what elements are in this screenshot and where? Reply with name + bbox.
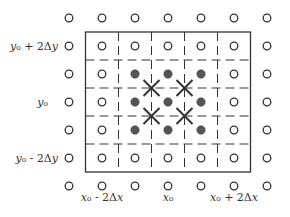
axis-labels: y₀ + 2Δyy₀y₀ - 2Δyx₀ - 2Δxx₀x₀ + 2Δx [9, 40, 259, 204]
open-grid-point [197, 42, 205, 50]
open-grid-point [263, 126, 271, 134]
stencil-grid-diagram: y₀ + 2Δyy₀y₀ - 2Δyx₀ - 2Δxx₀x₀ + 2Δx [0, 0, 290, 217]
open-grid-point [131, 182, 139, 190]
open-grid-point [164, 182, 172, 190]
open-grid-point [164, 154, 172, 162]
open-grid-point [65, 126, 73, 134]
open-grid-point [65, 98, 73, 106]
open-grid-point [98, 126, 106, 134]
open-grid-point [263, 98, 271, 106]
filled-grid-point [164, 98, 172, 106]
open-grid-point [164, 42, 172, 50]
open-grid-point [230, 182, 238, 190]
open-grid-point [131, 154, 139, 162]
filled-grid-point [131, 70, 139, 78]
label-x-right: x₀ + 2Δx [210, 191, 259, 204]
label-y-bot: y₀ - 2Δy [15, 152, 59, 165]
label-y-mid: y₀ [36, 96, 48, 109]
filled-grid-point [164, 126, 172, 134]
filled-grid-point [197, 70, 205, 78]
open-grid-point [98, 182, 106, 190]
open-grid-point [65, 154, 73, 162]
open-grid-point [230, 126, 238, 134]
open-grid-point [131, 14, 139, 22]
open-grid-point [230, 14, 238, 22]
open-grid-point [197, 182, 205, 190]
filled-grid-point [197, 126, 205, 134]
open-grid-point [65, 42, 73, 50]
label-y-top: y₀ + 2Δy [9, 40, 59, 53]
filled-grid-point [164, 70, 172, 78]
open-grid-point [263, 154, 271, 162]
open-grid-point [197, 154, 205, 162]
open-grid-point [98, 98, 106, 106]
open-grid-point [131, 42, 139, 50]
label-x-mid: x₀ [163, 191, 174, 204]
open-grid-point [230, 154, 238, 162]
grid-points [64, 13, 273, 192]
open-grid-point [98, 70, 106, 78]
open-grid-point [230, 98, 238, 106]
label-x-left: x₀ - 2Δx [81, 191, 124, 204]
open-grid-point [65, 14, 73, 22]
open-grid-point [98, 42, 106, 50]
filled-grid-point [131, 126, 139, 134]
open-grid-point [263, 42, 271, 50]
filled-grid-point [131, 98, 139, 106]
open-grid-point [230, 42, 238, 50]
open-grid-point [263, 14, 271, 22]
open-grid-point [197, 14, 205, 22]
open-grid-point [65, 70, 73, 78]
open-grid-point [263, 70, 271, 78]
open-grid-point [263, 182, 271, 190]
open-grid-point [164, 14, 172, 22]
open-grid-point [98, 154, 106, 162]
open-grid-point [65, 182, 73, 190]
open-grid-point [230, 70, 238, 78]
open-grid-point [98, 14, 106, 22]
filled-grid-point [197, 98, 205, 106]
